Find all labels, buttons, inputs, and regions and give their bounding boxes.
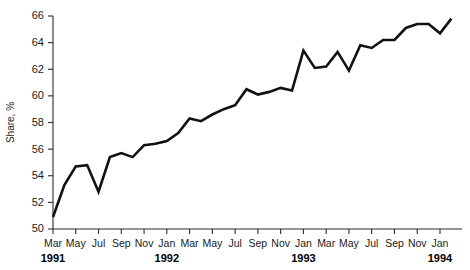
line-chart: 505254565860626466Share, %MarMayJulSepNo… — [0, 0, 470, 270]
y-axis-tick-label: 58 — [32, 116, 44, 128]
x-axis-tick-label: Nov — [408, 237, 427, 249]
x-axis-year-label: 1991 — [41, 252, 65, 264]
x-axis-tick-label: Jan — [432, 237, 449, 249]
x-axis-tick-label: Mar — [317, 237, 336, 249]
y-axis-tick-label: 52 — [32, 196, 44, 208]
x-axis-year-label: 1994 — [428, 252, 453, 264]
x-axis-tick-label: Jan — [295, 237, 312, 249]
y-axis-tick-label: 62 — [32, 63, 44, 75]
x-axis-tick-label: Sep — [249, 237, 268, 249]
x-axis-tick-label: Jul — [228, 237, 241, 249]
x-axis-tick-label: Nov — [135, 237, 154, 249]
chart-container: 505254565860626466Share, %MarMayJulSepNo… — [0, 0, 470, 270]
y-axis-tick-label: 54 — [32, 169, 44, 181]
y-axis-tick-label: 60 — [32, 89, 44, 101]
x-axis-tick-label: Sep — [385, 237, 404, 249]
y-axis-tick-label: 64 — [32, 36, 44, 48]
x-axis-tick-label: Sep — [112, 237, 131, 249]
y-axis-tick-label: 50 — [32, 222, 44, 234]
y-axis-tick-label: 66 — [32, 9, 44, 21]
data-series-line — [53, 19, 451, 217]
x-axis-tick-label: May — [66, 237, 87, 249]
x-axis-year-label: 1993 — [291, 252, 315, 264]
y-axis-title: Share, % — [5, 102, 16, 143]
x-axis-tick-label: May — [202, 237, 223, 249]
x-axis-tick-label: Jul — [365, 237, 378, 249]
x-axis-tick-label: Jul — [92, 237, 105, 249]
x-axis-tick-label: Jan — [158, 237, 175, 249]
x-axis-tick-label: Mar — [181, 237, 200, 249]
x-axis-tick-label: May — [339, 237, 360, 249]
y-axis-tick-label: 56 — [32, 143, 44, 155]
x-axis-year-label: 1992 — [155, 252, 179, 264]
x-axis-tick-label: Nov — [271, 237, 290, 249]
x-axis-tick-label: Mar — [44, 237, 63, 249]
